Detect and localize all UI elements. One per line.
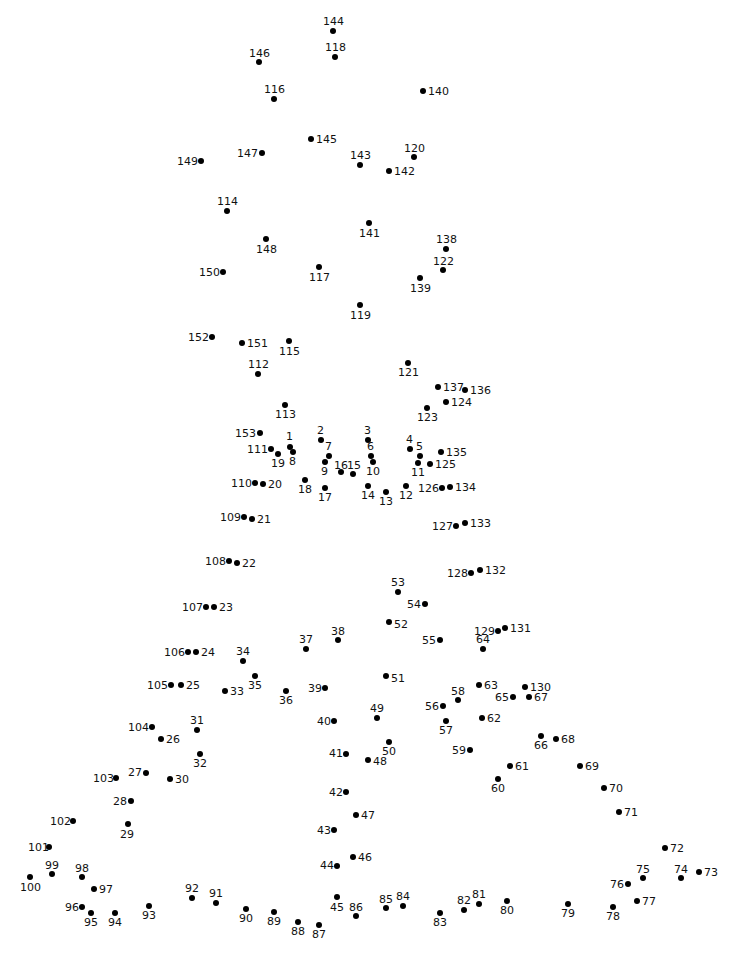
dot-label: 104 — [128, 722, 149, 733]
dot-138 — [443, 246, 449, 252]
dot-149 — [198, 158, 204, 164]
dot-96 — [79, 904, 85, 910]
dot-label: 35 — [248, 680, 262, 691]
dot-100 — [27, 874, 33, 880]
dot-label: 90 — [239, 913, 253, 924]
dot-puzzle-canvas: 1234567891011121314151617181920212223242… — [0, 0, 737, 970]
dot-label: 150 — [199, 267, 220, 278]
dot-label: 139 — [410, 283, 431, 294]
dot-label: 3 — [364, 425, 371, 436]
dot-label: 12 — [399, 490, 413, 501]
dot-46 — [350, 854, 356, 860]
dot-142 — [386, 168, 392, 174]
dot-label: 105 — [147, 680, 168, 691]
dot-label: 95 — [84, 917, 98, 928]
dot-150 — [220, 269, 226, 275]
dot-68 — [553, 736, 559, 742]
dot-label: 7 — [325, 441, 332, 452]
dot-label: 63 — [484, 680, 498, 691]
dot-27 — [143, 770, 149, 776]
dot-25 — [178, 682, 184, 688]
dot-61 — [507, 763, 513, 769]
dot-40 — [331, 718, 337, 724]
dot-92 — [189, 895, 195, 901]
dot-label: 92 — [185, 883, 199, 894]
dot-label: 123 — [417, 412, 438, 423]
dot-119 — [357, 302, 363, 308]
dot-143 — [357, 162, 363, 168]
dot-76 — [625, 881, 631, 887]
dot-label: 140 — [428, 86, 449, 97]
dot-153 — [257, 430, 263, 436]
dot-label: 11 — [411, 467, 425, 478]
dot-label: 21 — [257, 514, 271, 525]
dot-label: 61 — [515, 761, 529, 772]
dot-label: 116 — [264, 84, 285, 95]
dot-label: 153 — [235, 428, 256, 439]
dot-51 — [383, 673, 389, 679]
dot-label: 1 — [286, 431, 293, 442]
dot-label: 49 — [370, 703, 384, 714]
dot-7 — [326, 453, 332, 459]
dot-label: 44 — [320, 860, 334, 871]
dot-139 — [417, 275, 423, 281]
dot-label: 60 — [491, 783, 505, 794]
dot-label: 42 — [329, 787, 343, 798]
dot-label: 121 — [398, 367, 419, 378]
dot-label: 110 — [231, 478, 252, 489]
dot-label: 85 — [379, 894, 393, 905]
dot-label: 55 — [422, 635, 436, 646]
dot-23 — [211, 604, 217, 610]
dot-127 — [453, 523, 459, 529]
dot-label: 106 — [164, 647, 185, 658]
dot-30 — [167, 776, 173, 782]
dot-label: 58 — [451, 686, 465, 697]
dot-label: 41 — [329, 748, 343, 759]
dot-label: 101 — [28, 842, 49, 853]
dot-140 — [420, 88, 426, 94]
dot-label: 31 — [190, 715, 204, 726]
dot-label: 149 — [177, 156, 198, 167]
dot-label: 29 — [120, 829, 134, 840]
dot-label: 46 — [358, 852, 372, 863]
dot-124 — [443, 399, 449, 405]
dot-label: 26 — [166, 734, 180, 745]
dot-label: 54 — [407, 599, 421, 610]
dot-label: 16 — [334, 460, 348, 471]
dot-label: 24 — [201, 647, 215, 658]
dot-72 — [662, 845, 668, 851]
dot-label: 45 — [330, 902, 344, 913]
dot-45 — [334, 894, 340, 900]
dot-label: 115 — [279, 346, 300, 357]
dot-label: 80 — [500, 905, 514, 916]
dot-70 — [601, 785, 607, 791]
dot-2 — [318, 437, 324, 443]
dot-label: 130 — [530, 682, 551, 693]
dot-44 — [334, 863, 340, 869]
dot-5 — [417, 453, 423, 459]
dot-55 — [437, 637, 443, 643]
dot-label: 125 — [435, 459, 456, 470]
dot-label: 100 — [20, 882, 41, 893]
dot-59 — [467, 747, 473, 753]
dot-label: 19 — [271, 458, 285, 469]
dot-label: 57 — [439, 725, 453, 736]
dot-108 — [226, 558, 232, 564]
dot-label: 103 — [93, 773, 114, 784]
dot-134 — [447, 484, 453, 490]
dot-label: 127 — [432, 521, 453, 532]
dot-label: 89 — [267, 916, 281, 927]
dot-label: 134 — [455, 482, 476, 493]
dot-label: 75 — [636, 864, 650, 875]
dot-label: 69 — [585, 761, 599, 772]
dot-label: 59 — [452, 745, 466, 756]
dot-label: 82 — [457, 895, 471, 906]
dot-label: 129 — [474, 626, 495, 637]
dot-label: 66 — [534, 740, 548, 751]
dot-34 — [240, 658, 246, 664]
dot-label: 126 — [418, 483, 439, 494]
dot-56 — [440, 703, 446, 709]
dot-label: 14 — [361, 490, 375, 501]
dot-label: 84 — [396, 891, 410, 902]
dot-69 — [577, 763, 583, 769]
